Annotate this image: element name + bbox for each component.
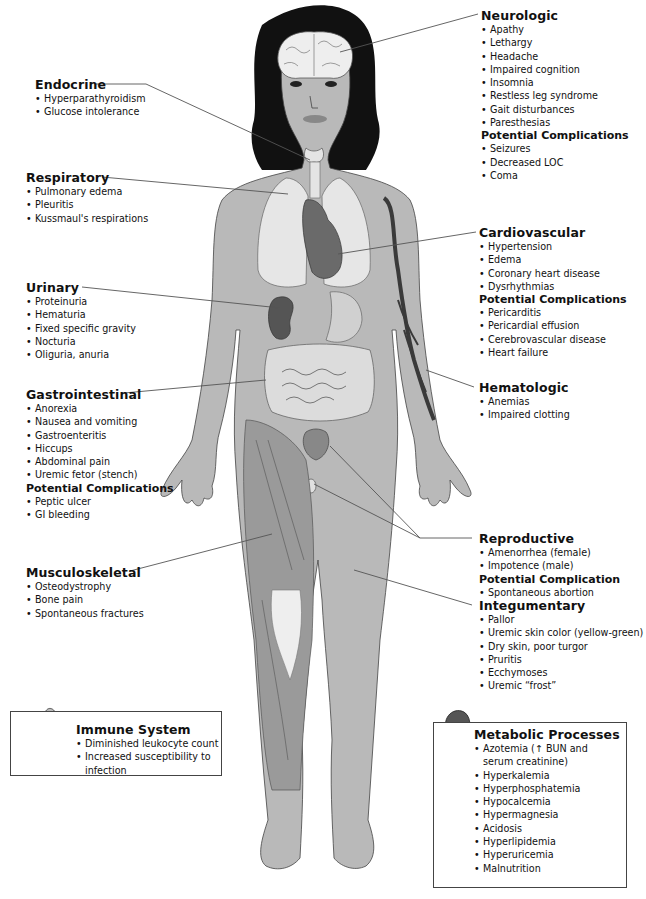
list-item: Impaired clotting [479, 408, 570, 421]
list-item: Lethargy [481, 36, 629, 49]
list-item: Pulmonary edema [26, 185, 148, 198]
list-item: Increased susceptibility to infection [76, 750, 214, 777]
section-reproductive: Reproductive Amenorrhea (female) Impoten… [479, 531, 620, 599]
list-item: GI bleeding [26, 508, 174, 521]
list-item: Uremic “frost” [479, 679, 643, 692]
section-urinary: Urinary Proteinuria Hematuria Fixed spec… [26, 280, 136, 361]
list-item: Nausea and vomiting [26, 415, 174, 428]
list-item: Insomnia [481, 76, 629, 89]
item-list: Anemias Impaired clotting [479, 395, 570, 422]
list-item: Impaired cognition [481, 63, 629, 76]
list-item: Hyperkalemia [474, 769, 594, 782]
item-list: Pulmonary edema Pleuritis Kussmaul's res… [26, 185, 148, 225]
list-item: Hypertension [479, 240, 627, 253]
list-item: Pericarditis [479, 306, 627, 319]
item-list: Apathy Lethargy Headache Impaired cognit… [481, 23, 629, 129]
section-hematologic: Hematologic Anemias Impaired clotting [479, 380, 570, 422]
list-item: Paresthesias [481, 116, 629, 129]
list-item: Acidosis [474, 822, 594, 835]
kidney [269, 297, 294, 339]
section-integumentary: Integumentary Pallor Uremic skin color (… [479, 598, 643, 693]
list-item: Fixed specific gravity [26, 322, 136, 335]
item-list: Osteodystrophy Bone pain Spontaneous fra… [26, 580, 144, 620]
section-title: Hematologic [479, 380, 570, 395]
trachea [310, 162, 320, 198]
section-cardiovascular: Cardiovascular Hypertension Edema Corona… [479, 225, 627, 359]
leader-hematologic [426, 370, 474, 387]
list-item: Amenorrhea (female) [479, 546, 620, 559]
list-item: Uremic skin color (yellow-green) [479, 626, 643, 639]
list-item: Impotence (male) [479, 559, 620, 572]
complications-title: Potential Complications [479, 293, 627, 306]
list-item: Apathy [481, 23, 629, 36]
section-title: Cardiovascular [479, 225, 627, 240]
list-item: Spontaneous abortion [479, 586, 620, 599]
section-title: Immune System [76, 722, 214, 737]
large-intestine [265, 344, 375, 421]
section-endocrine: Endocrine Hyperparathyroidism Glucose in… [35, 77, 146, 119]
section-musculoskeletal: Musculoskeletal Osteodystrophy Bone pain… [26, 565, 144, 620]
eye-right [325, 81, 337, 87]
list-item: Heart failure [479, 346, 627, 359]
list-item: Uremic fetor (stench) [26, 468, 174, 481]
list-item: Nocturia [26, 335, 136, 348]
complications-title: Potential Complication [479, 573, 620, 586]
section-title: Neurologic [481, 8, 629, 23]
list-item: Diminished leukocyte count [76, 737, 214, 750]
complication-list: Seizures Decreased LOC Coma [481, 142, 629, 182]
section-title: Musculoskeletal [26, 565, 144, 580]
list-item: Dysrhythmias [479, 280, 627, 293]
list-item: Decreased LOC [481, 156, 629, 169]
list-item: Azotemia (↑ BUN and serum creatinine) [474, 742, 594, 769]
list-item: Edema [479, 253, 627, 266]
list-item: Pericardial effusion [479, 319, 627, 332]
list-item: Pruritis [479, 653, 643, 666]
list-item: Cerebrovascular disease [479, 333, 627, 346]
list-item: Glucose intolerance [35, 105, 146, 118]
list-item: Hyperlipidemia [474, 835, 594, 848]
item-list: Amenorrhea (female) Impotence (male) [479, 546, 620, 573]
list-item: Gastroenteritis [26, 429, 174, 442]
list-item: Gait disturbances [481, 103, 629, 116]
complication-list: Spontaneous abortion [479, 586, 620, 599]
list-item: Spontaneous fractures [26, 607, 144, 620]
section-title: Respiratory [26, 170, 148, 185]
item-list: Azotemia (↑ BUN and serum creatinine) Hy… [474, 742, 594, 875]
list-item: Restless leg syndrome [481, 89, 629, 102]
section-title: Reproductive [479, 531, 620, 546]
section-respiratory: Respiratory Pulmonary edema Pleuritis Ku… [26, 170, 148, 225]
section-title: Endocrine [35, 77, 146, 92]
section-metabolic: Metabolic Processes Azotemia (↑ BUN and … [474, 727, 620, 875]
list-item: Proteinuria [26, 295, 136, 308]
list-item: Bone pain [26, 593, 144, 606]
section-title: Urinary [26, 280, 136, 295]
list-item: Pallor [479, 613, 643, 626]
complications-title: Potential Complications [481, 129, 629, 142]
section-neurologic: Neurologic Apathy Lethargy Headache Impa… [481, 8, 629, 182]
list-item: Dry skin, poor turgor [479, 640, 643, 653]
complications-title: Potential Complications [26, 482, 174, 495]
list-item: Peptic ulcer [26, 495, 174, 508]
item-list: Diminished leukocyte count Increased sus… [76, 737, 214, 777]
section-title: Metabolic Processes [474, 727, 620, 742]
list-item: Malnutrition [474, 862, 594, 875]
section-gastrointestinal: Gastrointestinal Anorexia Nausea and vom… [26, 387, 174, 521]
list-item: Hematuria [26, 308, 136, 321]
list-item: Hyperuricemia [474, 848, 594, 861]
item-list: Pallor Uremic skin color (yellow-green) … [479, 613, 643, 693]
list-item: Kussmaul's respirations [26, 212, 148, 225]
list-item: Hyperphosphatemia [474, 782, 594, 795]
complication-list: Peptic ulcer GI bleeding [26, 495, 174, 522]
list-item: Coronary heart disease [479, 267, 627, 280]
list-item: Ecchymoses [479, 666, 643, 679]
list-item: Hiccups [26, 442, 174, 455]
list-item: Coma [481, 169, 629, 182]
list-item: Pleuritis [26, 198, 148, 211]
section-immune: Immune System Diminished leukocyte count… [76, 722, 214, 777]
list-item: Anorexia [26, 402, 174, 415]
item-list: Anorexia Nausea and vomiting Gastroenter… [26, 402, 174, 482]
item-list: Proteinuria Hematuria Fixed specific gra… [26, 295, 136, 361]
complication-list: Pericarditis Pericardial effusion Cerebr… [479, 306, 627, 359]
section-title: Integumentary [479, 598, 643, 613]
list-item: Hypermagnesia [474, 808, 594, 821]
